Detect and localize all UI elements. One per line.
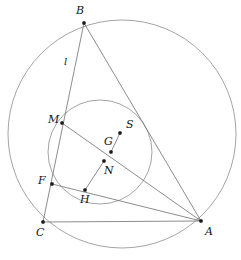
point-label-G: G — [104, 136, 113, 147]
geometry-figure: BACMFHGNSl — [0, 0, 241, 260]
cevian-M-A — [62, 123, 201, 221]
point-dot-B — [82, 21, 85, 24]
point-label-C: C — [36, 227, 44, 238]
incircle — [48, 100, 152, 204]
point-dot-H — [83, 188, 86, 191]
point-dot-S — [118, 131, 121, 134]
point-dot-C — [41, 220, 44, 223]
segment-H-N — [85, 161, 104, 190]
point-dot-N — [102, 159, 105, 162]
point-label-H: H — [80, 194, 90, 205]
point-dot-G — [109, 150, 112, 153]
figure-canvas — [0, 0, 241, 260]
line-label-l: l — [64, 56, 67, 67]
side-BA — [84, 23, 201, 221]
point-dot-F — [50, 182, 53, 185]
circumcircle — [8, 20, 236, 248]
point-label-B: B — [76, 5, 84, 16]
side-CA — [43, 221, 201, 222]
point-dot-A — [199, 219, 202, 222]
point-label-N: N — [104, 165, 114, 176]
point-label-S: S — [126, 119, 134, 130]
point-label-A: A — [205, 226, 213, 237]
cevian-F-A — [52, 184, 201, 221]
point-dot-M — [60, 121, 63, 124]
vertex-dot-group — [41, 21, 202, 223]
point-label-F: F — [38, 175, 46, 186]
point-label-M: M — [48, 114, 59, 125]
